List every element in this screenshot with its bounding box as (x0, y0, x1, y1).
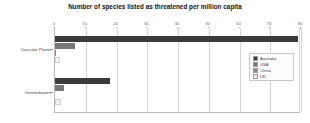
legend-swatch-icon (253, 74, 258, 79)
y-axis-tick-mark (50, 49, 53, 50)
legend-swatch-icon (253, 62, 258, 67)
x-axis-tick-label: 60 (236, 21, 241, 26)
x-axis-tick-label: 50 (205, 21, 210, 26)
y-axis-category-label: Invertebrates (25, 89, 51, 94)
bar-australia-vascular-plants (55, 36, 298, 42)
bar-uk-invertebrates (55, 99, 61, 105)
bar-chart: Number of species listed as threatened p… (0, 0, 310, 123)
legend-label: UK (260, 74, 266, 80)
x-axis-tick-label: 30 (144, 21, 149, 26)
y-axis-tick-mark (50, 92, 53, 93)
x-axis-tick-label: 20 (113, 21, 118, 26)
legend-swatch-icon (253, 68, 258, 73)
legend-item-uk[interactable]: UK (253, 74, 290, 80)
y-axis: Vascular PlantsInvertebrates (0, 28, 51, 113)
legend-swatch-icon (253, 56, 258, 61)
bar-uk-vascular-plants (55, 57, 60, 63)
bar-usa-invertebrates (55, 85, 64, 91)
gridline (301, 28, 302, 112)
x-axis-tick-label: 70 (267, 21, 272, 26)
bar-china-vascular-plants (55, 50, 56, 56)
bar-usa-vascular-plants (55, 43, 75, 49)
chart-legend: AustraliaUSAChinaUK (249, 53, 294, 81)
x-axis-tick-label: 10 (82, 21, 87, 26)
chart-title: Number of species listed as threatened p… (0, 3, 310, 10)
x-axis-tick-label: 0 (53, 21, 55, 26)
y-axis-category-label: Vascular Plants (21, 47, 51, 52)
x-axis-tick-label: 40 (175, 21, 180, 26)
bar-australia-invertebrates (55, 78, 110, 84)
x-axis: 01020304050607080 (54, 21, 300, 28)
x-axis-tick-label: 80 (298, 21, 303, 26)
